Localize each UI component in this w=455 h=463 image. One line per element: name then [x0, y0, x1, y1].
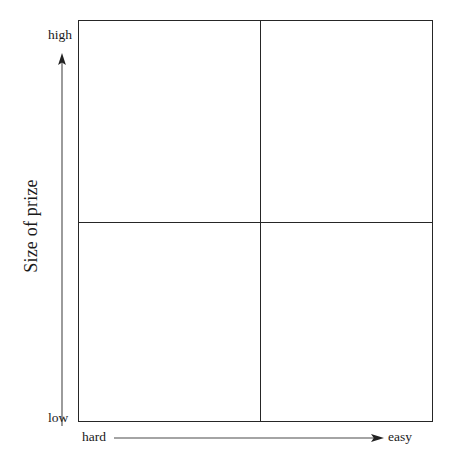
quadrant-top-right[interactable]: [262, 22, 432, 221]
y-axis-low-label: low: [48, 410, 68, 426]
x-axis-hard-label: hard: [82, 429, 106, 445]
quadrant-bottom-left[interactable]: [80, 224, 259, 421]
x-axis-arrow-icon: [114, 428, 390, 448]
horizontal-divider-line: [78, 222, 433, 223]
vertical-divider-line: [260, 20, 261, 422]
y-axis-high-label: high: [48, 27, 72, 43]
quadrant-top-left[interactable]: [80, 22, 259, 221]
x-axis-easy-label: easy: [388, 429, 412, 445]
matrix-diagram: Size of prize high low hard easy: [0, 0, 455, 463]
quadrant-bottom-right[interactable]: [262, 224, 432, 421]
y-axis-arrow-icon: [50, 48, 76, 426]
y-axis-title: Size of prize: [21, 179, 42, 273]
